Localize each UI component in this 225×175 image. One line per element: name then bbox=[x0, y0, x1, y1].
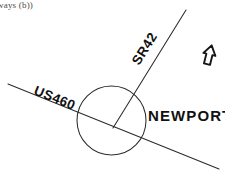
map-figure: ways (b)) SR42 US460 NEWPORT bbox=[0, 0, 225, 175]
north-arrow-icon bbox=[201, 44, 218, 66]
place-label-newport: NEWPORT bbox=[148, 107, 225, 124]
caption-fragment: ways (b)) bbox=[0, 0, 33, 10]
roundabout-circle bbox=[77, 86, 146, 155]
road-label-sr42: SR42 bbox=[129, 30, 160, 68]
road-label-us460: US460 bbox=[32, 83, 78, 113]
map-drawing-canvas: SR42 US460 NEWPORT bbox=[0, 0, 225, 175]
